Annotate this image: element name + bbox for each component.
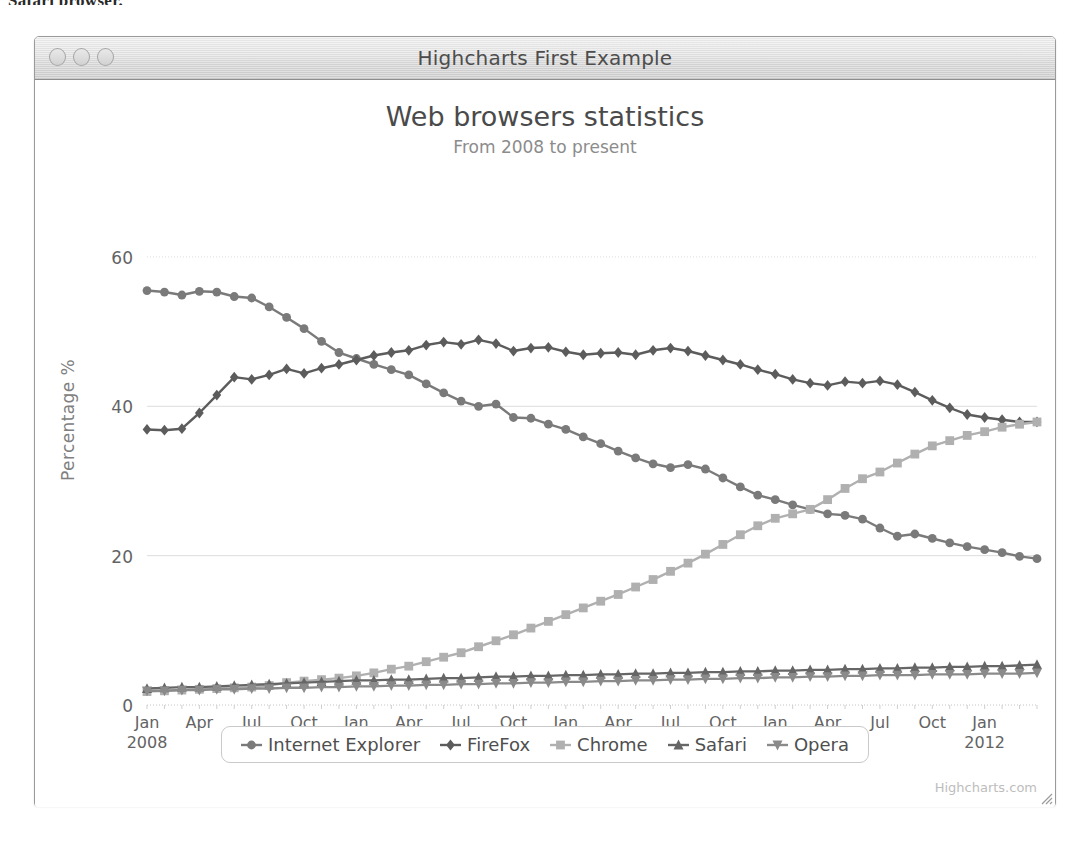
legend-symbol-diamond-icon bbox=[440, 738, 461, 752]
legend-symbol-triangle-icon bbox=[668, 738, 689, 752]
legend-label: Chrome bbox=[577, 734, 648, 755]
credits-label: Highcharts.com bbox=[935, 780, 1037, 795]
chart-legend: Internet ExplorerFireFoxChromeSafariOper… bbox=[221, 726, 869, 763]
legend-label: Safari bbox=[695, 734, 747, 755]
x-tick-year: 2012 bbox=[964, 733, 1005, 753]
x-tick-month: Jan bbox=[972, 713, 997, 732]
legend-item-safari[interactable]: Safari bbox=[668, 734, 747, 755]
legend-label: Opera bbox=[794, 734, 849, 755]
legend-item-firefox[interactable]: FireFox bbox=[440, 734, 530, 755]
legend-symbol-triangle-down-icon bbox=[767, 738, 788, 752]
x-tick-label: Jul bbox=[870, 713, 889, 733]
data-point-marker bbox=[446, 739, 455, 750]
legend-item-opera[interactable]: Opera bbox=[767, 734, 849, 755]
scan-artifact-text: Safari browser. bbox=[8, 0, 123, 5]
x-tick-label: Jan2008 bbox=[127, 713, 168, 753]
window-body: Web browsers statistics From 2008 to pre… bbox=[35, 80, 1055, 807]
x-axis-tick-labels: Jan2008AprJulOctJan2009AprJulOctJan2010A… bbox=[35, 80, 1055, 807]
highcharts-chart: Web browsers statistics From 2008 to pre… bbox=[35, 80, 1055, 807]
legend-symbol-square-icon bbox=[550, 738, 571, 752]
x-tick-year: 2008 bbox=[127, 733, 168, 753]
x-tick-month: Jan bbox=[135, 713, 160, 732]
legend-symbol-circle-icon bbox=[241, 738, 262, 752]
window-titlebar[interactable]: Highcharts First Example bbox=[35, 37, 1055, 80]
legend-item-internet-explorer[interactable]: Internet Explorer bbox=[241, 734, 420, 755]
x-tick-month: Jul bbox=[870, 713, 889, 732]
legend-item-chrome[interactable]: Chrome bbox=[550, 734, 648, 755]
resize-grip-icon[interactable] bbox=[1038, 790, 1053, 805]
x-tick-label: Oct bbox=[918, 713, 946, 733]
data-point-marker bbox=[556, 740, 565, 749]
x-tick-label: Apr bbox=[186, 713, 214, 733]
legend-label: FireFox bbox=[467, 734, 530, 755]
application-window: Highcharts First Example Web browsers st… bbox=[34, 36, 1056, 806]
x-tick-label: Jan2012 bbox=[964, 713, 1005, 753]
x-tick-month: Oct bbox=[918, 713, 946, 732]
window-title: Highcharts First Example bbox=[35, 46, 1055, 70]
legend-label: Internet Explorer bbox=[268, 734, 420, 755]
data-point-marker bbox=[247, 740, 256, 749]
x-tick-month: Apr bbox=[186, 713, 214, 732]
